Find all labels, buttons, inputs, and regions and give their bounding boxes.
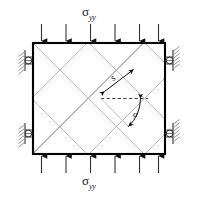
roller-support-left-upper [19, 50, 33, 74]
top-load-label: σyy [82, 5, 96, 22]
top-load-subscript: yy [89, 13, 96, 22]
roller-support-right-upper [166, 47, 180, 72]
internal-diagonal-crack-network [0, 0, 199, 198]
bottom-load-arrows [42, 156, 159, 173]
roller-support-left-lower [19, 123, 33, 147]
angle-label: α [133, 110, 138, 119]
roller-support-right-lower [166, 120, 180, 145]
bottom-load-symbol: σ [82, 173, 89, 188]
bottom-load-label: σyy [82, 174, 96, 191]
crack-direction-tick [101, 99, 128, 127]
top-load-arrows [42, 24, 159, 41]
roller-supports-left [19, 50, 33, 147]
figure-canvas: σyy σyy s α [0, 0, 199, 198]
roller-supports-right [166, 47, 180, 145]
top-load-symbol: σ [82, 4, 89, 19]
bottom-load-subscript: yy [89, 182, 96, 191]
diagram-svg [0, 0, 199, 198]
